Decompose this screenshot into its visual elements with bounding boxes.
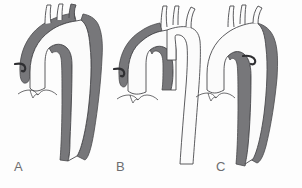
panel-c-branch-left-common-carotid <box>240 5 246 24</box>
aorta-diagram-svg <box>0 0 302 188</box>
panel-a-false-lumen-descending-inner <box>49 44 72 161</box>
panel-label-c: C <box>216 160 226 173</box>
panel-b-branch-left-subclavian <box>186 7 195 28</box>
panel-b-branch-brachiocephalic <box>161 6 167 27</box>
panel-c-branch-left-subclavian <box>253 6 262 24</box>
panel-b-illustration <box>114 6 200 164</box>
panel-a-branch-brachiocephalic <box>45 5 51 24</box>
aortic-dissection-figure: A B C <box>0 0 302 188</box>
panel-b-arch-descending-lumen <box>167 27 200 164</box>
panel-c-illustration <box>196 5 278 166</box>
panel-a-branch-left-subclavian <box>69 4 76 19</box>
panel-label-a: A <box>14 160 23 173</box>
panel-a-illustration <box>15 4 102 161</box>
panel-b-branch-left-common-carotid <box>173 6 179 25</box>
panel-a-branch-left-common-carotid <box>57 4 63 20</box>
panel-c-branch-brachiocephalic <box>228 6 234 27</box>
panel-label-b: B <box>116 160 125 173</box>
panel-a-aortic-lumen <box>30 20 91 161</box>
